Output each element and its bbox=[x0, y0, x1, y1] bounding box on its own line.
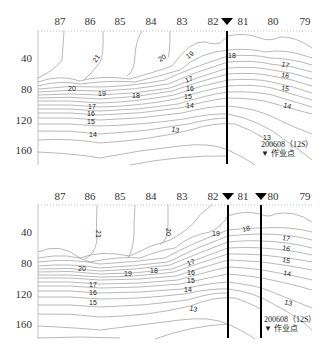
contour-label: 18 bbox=[241, 224, 250, 233]
contour-label: 19 bbox=[212, 230, 220, 237]
contour-label: 16 bbox=[187, 269, 195, 276]
x-tick: 82 bbox=[208, 190, 219, 202]
contour-label: 17 bbox=[281, 60, 290, 69]
contour-label: 15 bbox=[184, 93, 192, 100]
contour-figure: 87 86 85 84 83 82 81 80 79 40 80 120 160 bbox=[0, 0, 331, 352]
y-tick: 40 bbox=[21, 52, 33, 64]
y-tick: 120 bbox=[16, 288, 33, 300]
x-tick: 81 bbox=[238, 15, 249, 27]
x-tick: 85 bbox=[115, 15, 127, 27]
x-tick: 82 bbox=[208, 15, 219, 27]
x-tick: 84 bbox=[146, 15, 158, 27]
annotation-line2: ▼ 作业点 bbox=[264, 323, 298, 333]
contour-label: 17 bbox=[89, 281, 97, 288]
contour-label: 15 bbox=[89, 299, 97, 306]
contour-label: 17 bbox=[282, 234, 291, 242]
contour-label: 16 bbox=[87, 110, 95, 117]
contour-label: 16 bbox=[89, 289, 97, 296]
panel-1: 87 86 85 84 83 82 81 80 79 40 80 120 160 bbox=[16, 15, 314, 165]
contour-label: 21 bbox=[95, 230, 102, 238]
contour-label: 13 bbox=[189, 304, 198, 313]
x-tick: 83 bbox=[177, 15, 189, 27]
contour-label: 15 bbox=[282, 256, 291, 264]
x-tick: 83 bbox=[177, 190, 189, 202]
y-tick-labels: 40 80 120 160 bbox=[16, 226, 33, 330]
y-tick-labels: 40 80 120 160 bbox=[16, 52, 33, 156]
contour-label: 18 bbox=[150, 267, 158, 274]
contour-label: 20 bbox=[165, 228, 172, 236]
contour-label: 15 bbox=[87, 118, 95, 125]
x-tick: 79 bbox=[300, 190, 312, 202]
triangle-down-icon bbox=[255, 193, 267, 200]
x-tick: 81 bbox=[238, 190, 249, 202]
x-tick: 87 bbox=[55, 15, 67, 27]
annotation-line2: ▼ 作业点 bbox=[261, 148, 295, 158]
contour-label: 20 bbox=[78, 265, 86, 272]
contour-label: 13 bbox=[284, 298, 293, 307]
x-tick: 87 bbox=[55, 190, 67, 202]
contour-label: 18 bbox=[228, 52, 236, 59]
y-tick: 80 bbox=[21, 257, 33, 269]
contour-label: 16 bbox=[186, 85, 194, 92]
contour-label: 14 bbox=[186, 102, 194, 109]
contour-label: 15 bbox=[281, 84, 290, 92]
contour-labels: 21 20 19 18 20 19 18 17 16 15 17 16 15 1… bbox=[68, 50, 292, 141]
contour-label: 19 bbox=[98, 90, 106, 97]
contour-label: 14 bbox=[283, 269, 292, 277]
contour-label: 16 bbox=[281, 71, 290, 79]
contour-label: 20 bbox=[68, 85, 76, 92]
x-tick: 80 bbox=[268, 15, 280, 27]
y-tick: 160 bbox=[16, 144, 33, 156]
x-tick-labels: 87 86 85 84 83 82 81 80 79 bbox=[55, 15, 312, 27]
x-tick: 86 bbox=[85, 15, 97, 27]
contour-label: 17 bbox=[186, 258, 196, 267]
contour-label: 20 bbox=[157, 53, 167, 63]
triangle-down-icon bbox=[221, 18, 233, 25]
contour-label: 14 bbox=[89, 131, 97, 138]
panel-2: 87 86 85 84 83 82 81 80 79 40 80 120 160 bbox=[16, 190, 317, 339]
x-tick: 86 bbox=[85, 190, 97, 202]
x-tick: 80 bbox=[268, 190, 280, 202]
y-tick: 40 bbox=[21, 226, 33, 238]
contour-label: 19 bbox=[185, 50, 195, 60]
contour-label: 14 bbox=[184, 286, 192, 293]
annotation-line1: 200608（12S） bbox=[264, 315, 316, 324]
annotation-line1: 200608（12S） bbox=[261, 140, 313, 149]
contour-label: 17 bbox=[88, 103, 96, 110]
y-tick: 80 bbox=[21, 83, 33, 95]
contour-label: 15 bbox=[187, 277, 195, 284]
contour-label: 17 bbox=[184, 75, 194, 84]
triangle-down-icon bbox=[222, 193, 234, 200]
x-tick-labels: 87 86 85 84 83 82 81 80 79 bbox=[55, 190, 312, 202]
x-tick: 85 bbox=[115, 190, 127, 202]
contour-label: 16 bbox=[282, 244, 291, 252]
x-tick: 79 bbox=[300, 15, 312, 27]
x-tick: 84 bbox=[146, 190, 158, 202]
contour-label: 19 bbox=[124, 270, 132, 277]
contour-label: 18 bbox=[132, 92, 140, 99]
y-tick: 120 bbox=[16, 114, 33, 126]
y-tick: 160 bbox=[16, 318, 33, 330]
